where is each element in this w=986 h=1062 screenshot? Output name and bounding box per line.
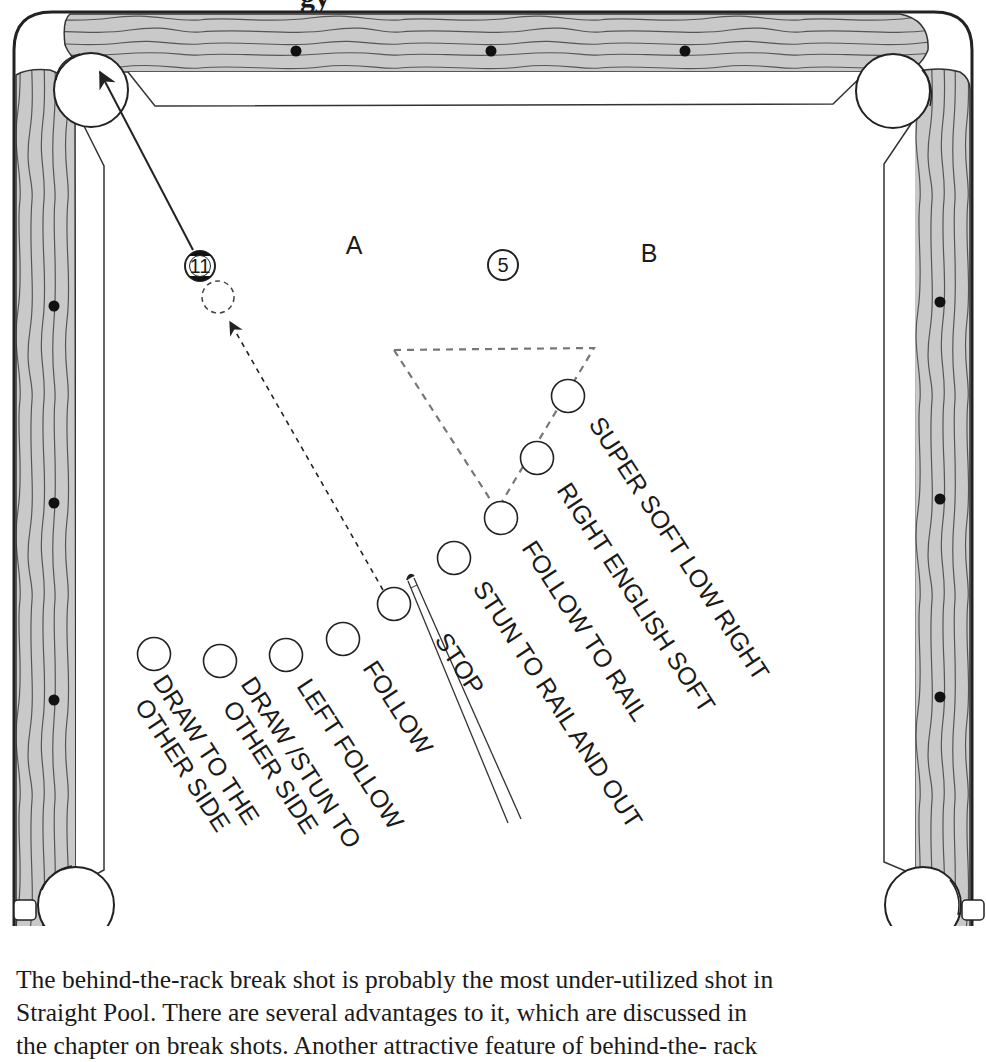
diamond-marker	[680, 46, 691, 57]
corner-pocket-top-right	[856, 54, 930, 128]
diamond-marker	[486, 46, 497, 57]
ball-11: 11	[185, 251, 215, 281]
cue-ball-position	[204, 645, 237, 678]
cue-ball-position	[138, 638, 171, 671]
right-cushion	[884, 118, 915, 875]
cue-ball-position	[485, 502, 518, 535]
top-cushion	[128, 72, 866, 106]
pocket-liner-left	[14, 900, 36, 920]
table-outer-frame	[14, 12, 972, 940]
diamond-marker	[291, 46, 302, 57]
cue-ball-position	[270, 639, 303, 672]
diamond-marker	[935, 297, 946, 308]
cue-ball-position	[327, 623, 360, 656]
left-rail	[16, 70, 76, 930]
svg-text:11: 11	[190, 255, 211, 277]
cue-ball-position	[552, 380, 585, 413]
cue-ball-position	[438, 542, 471, 575]
body-caption: The behind-the-rack break shot is probab…	[16, 963, 986, 1062]
diamond-marker	[49, 498, 60, 509]
ball-5: 5	[488, 250, 518, 280]
diamond-marker	[935, 494, 946, 505]
svg-text:5: 5	[497, 254, 508, 276]
pocket-liner-right	[962, 900, 984, 920]
corner-pocket-top-left	[54, 53, 128, 127]
caption-line: the chapter on break shots. Another attr…	[16, 1029, 986, 1062]
diamond-marker	[49, 301, 60, 312]
pool-table-diagram: AB 115 SUPER SOFT LOW RIGHTRIGHT ENGLISH…	[0, 0, 986, 940]
cue-ball-position	[521, 442, 554, 475]
left-cushion	[76, 110, 104, 885]
zone-label-b: B	[641, 239, 658, 267]
diamond-marker	[935, 692, 946, 703]
cue-ball-position	[378, 588, 411, 621]
zone-label-a: A	[346, 231, 363, 259]
diamond-marker	[49, 695, 60, 706]
caption-line: Straight Pool. There are several advanta…	[16, 996, 986, 1029]
caption-line: The behind-the-rack break shot is probab…	[16, 963, 986, 996]
top-rail	[64, 14, 928, 72]
